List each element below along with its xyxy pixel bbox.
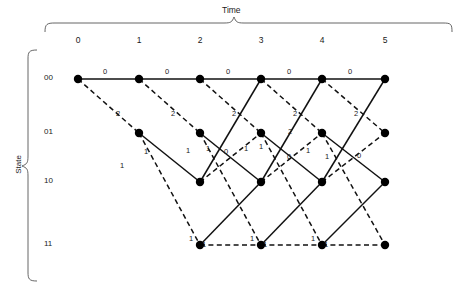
y-axis-title: State [14,145,23,185]
branch-metric-label: 1 [324,241,328,249]
branch-metric-label: 2 [354,110,358,118]
branch-metric-label: 2 [293,110,297,118]
trellis-node [257,129,265,137]
branch-metric-label: 1 [250,235,254,243]
branch-metric-label: 1 [306,147,310,155]
time-tick-label: 1 [130,36,148,45]
trellis-node [381,178,389,186]
x-axis-title: Time [222,6,241,15]
branch-metric-label: 0 [287,68,291,76]
branch-metric-label: 0 [357,152,361,160]
trellis-edge [139,133,200,182]
trellis-node [318,178,326,186]
state-row-label: 01 [44,128,53,136]
trellis-edge [78,79,139,133]
trellis-node [318,129,326,137]
trellis-node [135,129,143,137]
state-row-label: 00 [44,74,53,82]
trellis-edge [261,133,322,245]
trellis-node [381,241,389,249]
time-brace [45,17,452,32]
branch-metric-label: 1 [206,145,210,153]
branch-metric-label: 1 [120,162,124,170]
branch-metric-label: 2 [171,110,175,118]
trellis-edge [261,79,322,133]
trellis-node [74,75,82,83]
trellis-node [196,129,204,137]
trellis-node [318,75,326,83]
time-tick-label: 2 [191,36,209,45]
branch-metric-label: 1 [244,145,248,153]
trellis-node [135,75,143,83]
trellis-node [196,178,204,186]
state-row-label: 11 [44,240,52,248]
trellis-node [257,178,265,186]
trellis-edge [200,79,261,182]
state-row-label: 10 [44,177,53,185]
branch-metric-label: 1 [263,241,267,249]
trellis-figure: 0123450001101100000222221111011201101111… [0,0,464,307]
branch-metric-label: 1 [259,143,263,151]
trellis-edge [322,79,385,133]
branch-metric-label: 1 [186,147,190,155]
time-tick-label: 4 [313,36,331,45]
branch-metric-label: 1 [202,241,206,249]
trellis-edge [139,79,200,133]
branch-metric-label: 2 [232,110,236,118]
trellis-edge [322,182,385,245]
branch-metric-label: 0 [226,68,230,76]
branch-metric-label: 1 [144,148,148,156]
branch-metric-label: 2 [116,110,120,118]
time-tick-label: 5 [376,36,394,45]
trellis-node [381,129,389,137]
trellis-edge [322,79,385,182]
trellis-node [257,75,265,83]
branch-metric-label: 0 [103,68,107,76]
time-tick-label: 0 [69,36,87,45]
branch-metric-label: 0 [165,68,169,76]
trellis-node [196,75,204,83]
branch-metric-label: 0 [224,148,228,156]
trellis-canvas [0,0,464,307]
trellis-node [381,75,389,83]
branch-metric-label: 0 [348,68,352,76]
trellis-edge [200,79,261,133]
branch-metric-label: 1 [189,235,193,243]
state-brace [22,50,37,281]
branch-metric-label: 1 [311,235,315,243]
branch-metric-label: 1 [325,153,329,161]
trellis-edge [322,133,385,245]
branch-metric-label: 2 [288,128,292,136]
time-tick-label: 3 [252,36,270,45]
branch-metric-label: 0 [287,153,291,161]
